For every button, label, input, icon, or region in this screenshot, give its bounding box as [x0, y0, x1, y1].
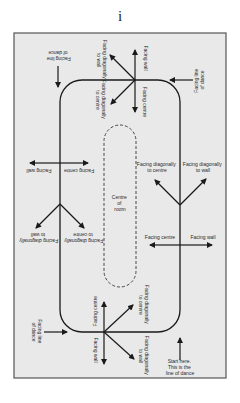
svg-text:Facing centre: Facing centre	[64, 168, 95, 174]
svg-text:Facing centre: Facing centre	[142, 87, 148, 118]
svg-text:Start here. This is the: Start here. This is the line of dance	[166, 358, 195, 376]
svg-text:Facing centre: Facing centre	[92, 296, 98, 327]
svg-text:Facing wall: Facing wall	[26, 168, 51, 174]
svg-text:Facing wall: Facing wall	[143, 45, 149, 70]
svg-text:Facing line of dance: Facing line of dance	[193, 67, 205, 93]
svg-text:Facing line of dance: Facing line of dance	[45, 50, 71, 62]
svg-text:Facing wall: Facing wall	[93, 337, 99, 362]
svg-text:Facing wall: Facing wall	[190, 234, 215, 240]
line-of-dance-diagram: Centre of room Facing line of dance Faci…	[0, 0, 240, 403]
svg-text:Facing centre: Facing centre	[145, 234, 176, 240]
svg-text:Facing line of dance: Facing line of dance	[31, 319, 43, 345]
